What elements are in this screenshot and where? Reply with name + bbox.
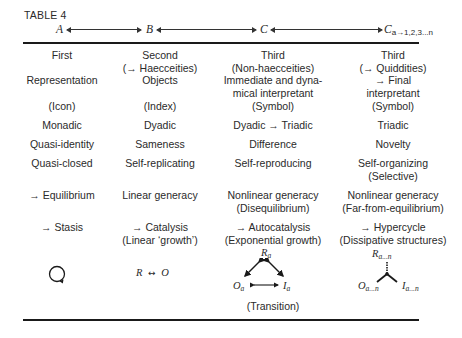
double-arrow-icon [271,29,382,30]
col3-row2-line3: (Symbol) [217,100,329,113]
col2-row6: Self-replicating [105,157,215,170]
col3-row2-line1: Immediate and dyna- [217,74,329,87]
converging-arrows-icon [368,260,408,286]
triangle-arrows-icon [236,258,296,290]
col2-row8-line2: (Linear ‘growth’) [105,234,215,247]
col3-row4: Difference [217,138,329,151]
col1-row8: → Stasis [6,221,118,234]
col3-row1-line1: Third [217,49,329,62]
col1-row2: Representation [6,74,118,87]
col3-row5: Self-reproducing [217,157,329,170]
col2-row3: (Index) [105,100,215,113]
diagram-second-r: R [136,267,142,278]
circular-loop-arrow-icon [46,264,68,286]
col3-row2-line2: mical interpretant [217,87,329,100]
col3-row3: Dyadic → Triadic [217,119,329,132]
col2-row5: Sameness [105,138,215,151]
col2-row8-line1: → Catalysis [105,221,215,234]
col3-row6-line2: (Disequilibrium) [217,202,329,215]
col2-row7: Linear generacy [105,189,215,202]
col4-row2-line3: (Symbol) [330,100,456,113]
diagram-second: R ↔ O [136,267,169,278]
header-label-c-subscript: a→1,2,3...n [392,28,433,37]
col1-row6: Quasi-closed [6,157,118,170]
header-label-c-base: C [384,23,392,35]
header-label-c-indexed: Ca→1,2,3...n [384,22,433,40]
table-title: TABLE 4 [24,9,67,21]
col3-row1-line2: (Non-haecceities) [217,62,329,75]
header-label-c: C [260,22,268,36]
double-arrow-icon [157,29,256,30]
col4-row4: Novelty [330,138,456,151]
col4-row2-line2: interpretant [330,87,456,100]
col4-row6-line2: (Far-from-equilibrium) [330,202,456,215]
table-top-rule-actual [23,42,419,44]
col2-row1-line2: (→ Haecceities) [105,62,215,75]
col3-row6-line1: Nonlinear generacy [217,189,329,202]
bidirectional-arrow-icon: ↔ [148,268,156,278]
col1-row5: Quasi-identity [6,138,118,151]
col2-row4: Dyadic [105,119,215,132]
col3-row7-line1: → Autocatalysis [217,221,329,234]
col4-row2-line1: → Final [330,74,456,87]
header-progression: A B C Ca→1,2,3...n [0,22,462,38]
col1-row1: First [6,49,118,62]
header-label-b: B [146,22,153,36]
double-arrow-icon [67,29,141,30]
col1-row4: Monadic [6,119,118,132]
col4-row6-line1: Nonlinear generacy [330,189,456,202]
col4-row7-line2: (Dissipative structures) [330,234,456,247]
col4-row5-line1: Self-organizing [330,157,456,170]
diagram-second-o: O [161,267,169,278]
col4-row7-line1: → Hypercycle [330,221,456,234]
col1-row7: → Equilibrium [6,189,118,202]
table-bottom-rule [23,319,419,321]
col4-row1-line1: Third [330,49,456,62]
col1-row3: (Icon) [6,100,118,113]
col4-row3: Triadic [330,119,456,132]
header-label-a: A [56,22,63,36]
col2-row2: Objects [105,74,215,87]
col4-row5-line2: (Selective) [330,170,456,183]
diagram-fourth-left-base: O [358,280,366,291]
col2-row1-line1: Second [105,49,215,62]
diagram-third-caption: (Transition) [217,300,329,313]
col4-row1-line2: (→ Quiddities) [330,62,456,75]
col3-row7-line2: (Exponential growth) [217,234,329,247]
